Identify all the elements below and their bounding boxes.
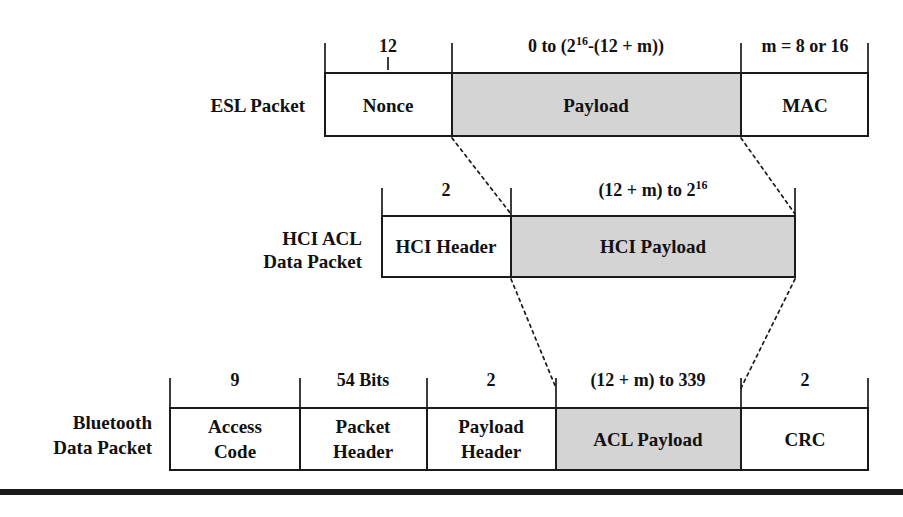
esl-mac-size-label: m = 8 or 16 [762, 36, 849, 56]
bluetooth-crc-label: CRC [784, 429, 825, 450]
bluetooth-packet-header-size-label: 54 Bits [337, 370, 390, 390]
bluetooth-packet-header-label-line2: Header [333, 441, 394, 462]
bluetooth-acl-payload-size-label: (12 + m) to 339 [590, 370, 705, 391]
esl-payload-size-superscript: 16 [576, 34, 588, 48]
hci-header-field-label: HCI Header [396, 236, 497, 257]
bluetooth-payload-header-label-line1: Payload [458, 416, 524, 437]
packet-diagram-container: ESL Packet 12 0 to (216-(12 + m)) m = 8 … [0, 0, 903, 517]
bluetooth-access-code-size-label: 9 [231, 370, 240, 390]
esl-payload-size-prefix: 0 to (2 [528, 36, 576, 57]
esl-packet-row: ESL Packet 12 0 to (216-(12 + m)) m = 8 … [211, 34, 868, 136]
esl-mac-field-label: MAC [782, 95, 827, 116]
bluetooth-payload-header-label-line2: Header [461, 441, 522, 462]
bottom-horizontal-rule [0, 489, 903, 495]
esl-payload-field-label: Payload [563, 95, 629, 116]
hci-header-size-label: 2 [442, 180, 451, 200]
hci-acl-data-packet-row: HCI ACL Data Packet 2 (12 + m) to 216 HC… [263, 178, 795, 277]
hci-payload-field-label: HCI Payload [600, 236, 707, 257]
leader-hci-payload-end-to-bluetooth [741, 279, 795, 388]
bluetooth-acl-payload-label: ACL Payload [593, 429, 703, 450]
esl-packet-row-label: ESL Packet [211, 95, 306, 116]
bluetooth-access-code-label-line1: Access [208, 416, 262, 437]
bluetooth-crc-size-label: 2 [801, 370, 810, 390]
leader-esl-payload-end-to-hci [741, 138, 795, 214]
esl-nonce-field-label: Nonce [363, 95, 414, 116]
hci-payload-size-prefix: (12 + m) to 2 [598, 180, 695, 201]
bluetooth-row-label-line2: Data Packet [53, 437, 152, 458]
bluetooth-payload-header-size-label: 2 [487, 370, 496, 390]
hci-row-label-line2: Data Packet [263, 251, 362, 272]
esl-payload-size-label: 0 to (216-(12 + m)) [528, 34, 664, 57]
bluetooth-access-code-label-line2: Code [214, 441, 256, 462]
bluetooth-data-packet-row: Bluetooth Data Packet 9 54 Bits 2 (12 + … [53, 370, 868, 470]
bluetooth-packet-header-label-line1: Packet [336, 416, 392, 437]
hci-payload-size-label: (12 + m) to 216 [598, 178, 707, 201]
bluetooth-row-label-line1: Bluetooth [73, 412, 153, 433]
esl-payload-size-suffix: -(12 + m)) [588, 36, 664, 57]
hci-row-label-line1: HCI ACL [282, 228, 362, 249]
leader-esl-payload-start-to-hci [452, 138, 511, 214]
hci-payload-size-superscript: 16 [696, 178, 708, 192]
packet-structure-diagram: ESL Packet 12 0 to (216-(12 + m)) m = 8 … [0, 0, 903, 517]
leader-hci-payload-start-to-bluetooth [511, 279, 556, 388]
esl-nonce-size-label: 12 [379, 36, 397, 56]
